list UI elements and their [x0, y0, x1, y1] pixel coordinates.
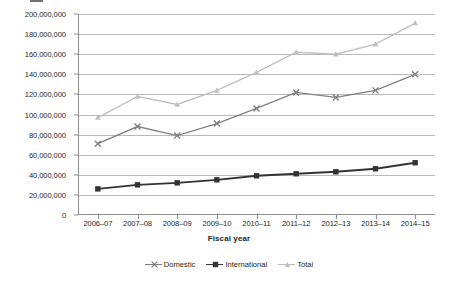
x-axis-tick-label: 2012–13 — [321, 219, 350, 228]
legend-item-total[interactable]: Total — [278, 260, 313, 269]
legend-marker-square-icon — [206, 260, 223, 269]
data-point-marker — [254, 105, 260, 111]
x-axis-tick-label: 2009–10 — [202, 219, 231, 228]
legend-marker-x-icon — [145, 260, 162, 269]
data-point-marker — [412, 160, 417, 165]
data-point-marker — [254, 173, 259, 178]
data-point-marker — [412, 71, 418, 77]
x-axis-tick-label: 2013–14 — [361, 219, 390, 228]
data-point-marker — [95, 186, 100, 191]
x-axis-tick-label: 2011–12 — [282, 219, 310, 228]
legend-label-international: International — [225, 261, 267, 269]
x-axis-tick-label: 2007–08 — [123, 219, 152, 228]
x-axis-tick — [296, 215, 297, 219]
x-axis-tick-label: 2014–15 — [401, 219, 430, 228]
x-axis-tick — [177, 215, 178, 219]
x-axis-tick-label: 2010–11 — [242, 219, 270, 228]
data-point-marker — [95, 141, 101, 147]
x-axis-tick — [415, 215, 416, 219]
x-axis-tick — [138, 215, 139, 219]
x-axis: 2006–072007–082008–092009–102010–112011–… — [0, 219, 458, 235]
x-axis-tick-label: 2006–07 — [83, 219, 112, 228]
line-chart: 020,000,00040,000,00060,000,00080,000,00… — [0, 0, 458, 283]
data-point-marker — [333, 169, 338, 174]
legend-item-domestic[interactable]: Domestic — [145, 260, 196, 269]
chart-legend: Domestic International Total — [0, 260, 458, 269]
legend-item-international[interactable]: International — [206, 260, 267, 269]
x-axis-title: Fiscal year — [0, 234, 458, 243]
x-axis-tick — [336, 215, 337, 219]
x-axis-tick-label: 2008–09 — [163, 219, 192, 228]
data-point-marker — [412, 20, 418, 25]
data-point-marker — [135, 182, 140, 187]
legend-label-total: Total — [297, 261, 313, 269]
data-point-marker — [373, 166, 378, 171]
data-point-marker — [293, 171, 298, 176]
x-axis-tick — [98, 215, 99, 219]
legend-marker-triangle-icon — [278, 260, 295, 269]
legend-label-domestic: Domestic — [164, 261, 196, 269]
data-point-marker — [174, 180, 179, 185]
data-point-marker — [214, 177, 219, 182]
x-axis-tick — [217, 215, 218, 219]
x-axis-tick — [376, 215, 377, 219]
x-axis-tick — [257, 215, 258, 219]
